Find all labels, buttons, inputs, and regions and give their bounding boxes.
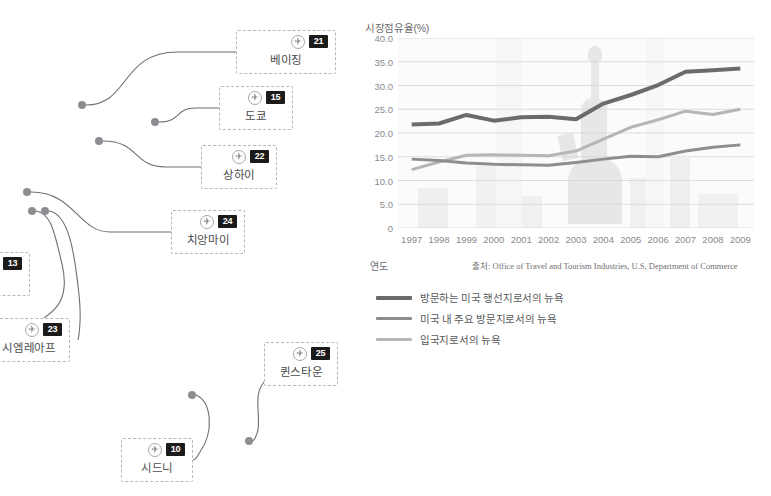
legend-item-label: 미국 내 주요 방문지로서의 뉴욕 bbox=[420, 311, 557, 326]
chart-y-tick-label: 15.0 bbox=[375, 151, 394, 162]
airplane-icon bbox=[25, 323, 39, 337]
map-origin-dot[interactable] bbox=[95, 137, 103, 145]
chart-y-tick-label: 20.0 bbox=[375, 128, 394, 139]
chart-x-tick-label: 2006 bbox=[648, 234, 669, 245]
chart-lines-svg bbox=[398, 38, 754, 228]
chart-x-tick-label: 1999 bbox=[456, 234, 477, 245]
destination-card[interactable]: 25퀸스타운 bbox=[264, 342, 338, 386]
destination-rank-badge: 24 bbox=[218, 215, 237, 228]
destination-card-header: 13 bbox=[0, 257, 22, 270]
map-origin-dot[interactable] bbox=[23, 188, 31, 196]
travel-destination-map: 21베이징15도쿄22상하이24치앙마이1323시엠레아프25퀸스타운10시드니 bbox=[0, 0, 360, 496]
destination-card-name: 베이징 bbox=[244, 51, 328, 67]
destination-rank-badge: 22 bbox=[250, 150, 269, 163]
map-origin-dot[interactable] bbox=[41, 207, 49, 215]
map-connector-line bbox=[36, 211, 64, 318]
destination-rank-badge: 23 bbox=[43, 323, 62, 336]
destination-card[interactable]: 24치앙마이 bbox=[171, 210, 245, 254]
chart-x-tick-label: 2001 bbox=[511, 234, 532, 245]
destination-card-name: 상하이 bbox=[209, 166, 269, 182]
legend-item-label: 방문하는 미국 행선지로서의 뉴욕 bbox=[420, 290, 564, 305]
legend-color-swatch bbox=[376, 296, 412, 300]
chart-y-tick-label: 10.0 bbox=[375, 175, 394, 186]
destination-card-header: 23 bbox=[0, 323, 62, 336]
destination-card[interactable]: 22상하이 bbox=[201, 145, 277, 189]
destination-card[interactable]: 15도쿄 bbox=[219, 86, 293, 130]
destination-card-name: 도쿄 bbox=[227, 107, 285, 123]
airplane-icon bbox=[232, 150, 246, 164]
chart-series-line bbox=[412, 145, 741, 165]
map-origin-dot[interactable] bbox=[188, 391, 196, 399]
chart-y-tick-label: 0 bbox=[388, 223, 393, 234]
map-origin-dot[interactable] bbox=[28, 207, 36, 215]
destination-card[interactable]: 23시엠레아프 bbox=[0, 318, 70, 362]
airplane-icon bbox=[200, 215, 214, 229]
chart-y-tick-label: 25.0 bbox=[375, 104, 394, 115]
airplane-icon bbox=[291, 35, 305, 49]
chart-x-tick-label: 2004 bbox=[593, 234, 614, 245]
chart-x-tick-label: 2005 bbox=[620, 234, 641, 245]
destination-card-name: 시드니 bbox=[129, 459, 185, 475]
market-share-chart-panel: 시장점유율(%) 05.010.015.020.025.030.035.040.… bbox=[360, 0, 771, 496]
map-origin-dot[interactable] bbox=[78, 101, 86, 109]
map-connector-line bbox=[31, 192, 171, 232]
legend-item-label: 입국지로서의 뉴욕 bbox=[420, 332, 500, 347]
chart-x-tick-label: 2009 bbox=[730, 234, 751, 245]
destination-card[interactable]: 21베이징 bbox=[236, 30, 336, 74]
destination-card-header: 21 bbox=[244, 35, 328, 48]
destination-rank-badge: 25 bbox=[311, 347, 330, 360]
chart-x-tick-label: 1997 bbox=[401, 234, 422, 245]
destination-rank-badge: 15 bbox=[266, 91, 285, 104]
map-connector-line bbox=[159, 108, 219, 122]
chart-x-tick-label: 1998 bbox=[428, 234, 449, 245]
chart-y-tick-label: 30.0 bbox=[375, 80, 394, 91]
destination-card[interactable]: 10시드니 bbox=[121, 438, 193, 482]
legend-color-swatch bbox=[376, 317, 412, 320]
chart-y-tick-label: 5.0 bbox=[380, 199, 393, 210]
chart-source-note: 출처: Office of Travel and Tourism Industr… bbox=[472, 259, 738, 271]
chart-x-tick-label: 2000 bbox=[483, 234, 504, 245]
legend-color-swatch bbox=[376, 338, 412, 341]
airplane-icon bbox=[148, 443, 162, 457]
destination-card-header: 22 bbox=[209, 150, 269, 163]
destination-rank-badge: 13 bbox=[3, 257, 22, 270]
destination-card-header: 24 bbox=[179, 215, 237, 228]
map-connector-line bbox=[193, 395, 209, 460]
chart-legend: 방문하는 미국 행선지로서의 뉴욕미국 내 주요 방문지로서의 뉴욕입국지로서의… bbox=[376, 290, 564, 347]
map-origin-dot[interactable] bbox=[245, 437, 253, 445]
legend-item[interactable]: 방문하는 미국 행선지로서의 뉴욕 bbox=[376, 290, 564, 305]
chart-series-line bbox=[412, 68, 741, 124]
destination-card-name: 퀸스타운 bbox=[272, 363, 330, 379]
destination-card-header: 25 bbox=[272, 347, 330, 360]
chart-x-tick-label: 2003 bbox=[565, 234, 586, 245]
map-connector-line bbox=[86, 52, 236, 105]
chart-y-tick-label: 40.0 bbox=[375, 33, 394, 44]
destination-card-name: 시엠레아프 bbox=[0, 339, 62, 355]
map-origin-dot[interactable] bbox=[151, 118, 159, 126]
destination-rank-badge: 10 bbox=[166, 443, 185, 456]
chart-y-tick-label: 35.0 bbox=[375, 56, 394, 67]
chart-x-tick-label: 2002 bbox=[538, 234, 559, 245]
chart-x-tick-label: 2007 bbox=[675, 234, 696, 245]
chart-x-axis-name: 연도 bbox=[370, 258, 387, 273]
destination-card-name: 치앙마이 bbox=[179, 231, 237, 247]
legend-item[interactable]: 입국지로서의 뉴욕 bbox=[376, 332, 564, 347]
destination-card-header: 15 bbox=[227, 91, 285, 104]
airplane-icon bbox=[248, 91, 262, 105]
legend-item[interactable]: 미국 내 주요 방문지로서의 뉴욕 bbox=[376, 311, 564, 326]
map-connector-line bbox=[103, 141, 201, 167]
destination-card-header: 10 bbox=[129, 443, 185, 456]
chart-x-tick-label: 2008 bbox=[702, 234, 723, 245]
destination-rank-badge: 21 bbox=[309, 35, 328, 48]
airplane-icon bbox=[293, 347, 307, 361]
destination-card[interactable]: 13 bbox=[0, 252, 30, 296]
chart-plot-area: 05.010.015.020.025.030.035.040.0 1997199… bbox=[398, 38, 754, 228]
